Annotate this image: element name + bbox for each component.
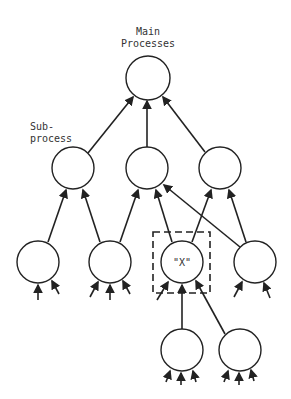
- leaf-node-6: [219, 329, 261, 371]
- input-arrow: [251, 370, 254, 381]
- sub-label-line1: Sub-: [30, 121, 54, 132]
- leaf-node-1: [17, 241, 59, 283]
- main-label-line2: Processes: [121, 38, 175, 49]
- edge-leaf4-sub3: [229, 190, 246, 242]
- subprocess-node-1: [52, 147, 94, 189]
- input-arrow: [157, 282, 168, 300]
- input-arrow: [123, 281, 130, 294]
- input-arrow: [90, 282, 98, 297]
- edge-leaf2-sub1: [83, 190, 100, 242]
- edge-sub3-main: [163, 97, 205, 152]
- input-arrow: [264, 283, 270, 298]
- leaf-node-2: [89, 241, 131, 283]
- edge-leaf1-sub1: [48, 190, 66, 242]
- edge-x-sub3: [192, 190, 211, 242]
- input-arrow: [234, 282, 242, 297]
- input-arrow: [193, 371, 196, 382]
- x-node-label: "X": [173, 257, 191, 268]
- main-process-node: [126, 56, 170, 100]
- main-label-line1: Main: [136, 26, 160, 37]
- edge-leaf2-sub2: [120, 190, 138, 242]
- subprocess-node-3: [199, 147, 241, 189]
- leaf-node-5: [161, 329, 203, 371]
- process-hierarchy-diagram: Main Processes Sub- process: [0, 0, 291, 399]
- leaf-node-4: [234, 241, 276, 283]
- input-arrow: [166, 371, 170, 382]
- subprocess-node-2: [126, 147, 168, 189]
- input-arrow: [52, 281, 59, 294]
- edge-sub1-main: [88, 97, 133, 153]
- edge-x-sub2: [156, 190, 172, 242]
- input-arrow: [224, 371, 228, 382]
- sub-label-line2: process: [30, 133, 72, 144]
